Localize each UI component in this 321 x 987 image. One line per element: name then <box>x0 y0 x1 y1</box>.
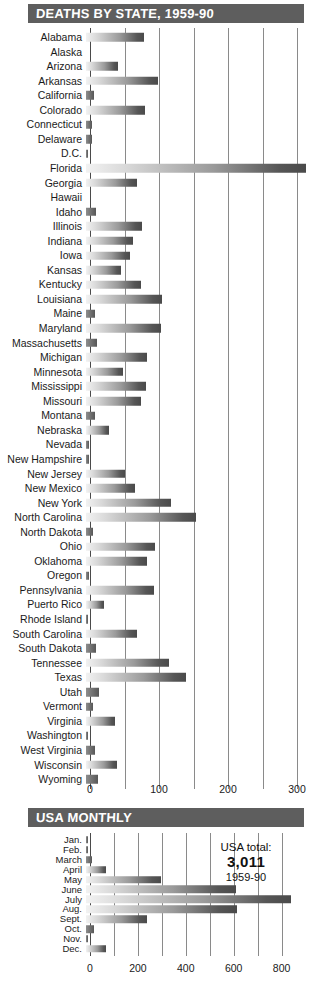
state-row: Oregon <box>0 568 321 583</box>
state-label: West Virginia <box>0 745 86 756</box>
month-bar <box>86 876 161 884</box>
month-label: May <box>0 875 86 885</box>
state-label: Massachusetts <box>0 338 86 349</box>
state-bar <box>86 251 130 260</box>
state-label: North Dakota <box>0 527 86 538</box>
state-label: Mississippi <box>0 381 86 392</box>
state-bar-track <box>86 146 321 161</box>
state-row: Tennessee <box>0 656 321 671</box>
state-row: North Dakota <box>0 525 321 540</box>
state-bar <box>86 600 104 609</box>
state-label: Delaware <box>0 134 86 145</box>
usa-total-value: 3,011 <box>207 854 285 871</box>
state-label: California <box>0 90 86 101</box>
state-label: Illinois <box>0 221 86 232</box>
state-bar-track <box>86 597 321 612</box>
state-bar-track <box>86 30 321 45</box>
state-bar <box>86 586 154 595</box>
state-bar-track <box>86 699 321 714</box>
state-label: Arizona <box>0 61 86 72</box>
state-row: Rhode Island <box>0 612 321 627</box>
state-label: Colorado <box>0 105 86 116</box>
state-bar <box>86 149 88 158</box>
state-bar-track <box>86 59 321 74</box>
state-label: South Carolina <box>0 629 86 640</box>
state-label: Ohio <box>0 541 86 552</box>
state-bar-track <box>86 612 321 627</box>
state-bar-track <box>86 336 321 351</box>
state-row: New Jersey <box>0 467 321 482</box>
month-row: Oct. <box>0 924 321 934</box>
state-label: Texas <box>0 672 86 683</box>
month-bar-track <box>86 885 321 895</box>
state-bar-track <box>86 656 321 671</box>
state-row: Montana <box>0 408 321 423</box>
state-label: Kentucky <box>0 279 86 290</box>
state-axis-tick-labels: 0100200300 <box>0 784 321 800</box>
state-bar <box>86 659 169 668</box>
state-row: Nevada <box>0 437 321 452</box>
state-bar <box>86 368 123 377</box>
state-bar-track <box>86 74 321 89</box>
month-bar-track <box>86 934 321 944</box>
state-bar-track <box>86 88 321 103</box>
state-label: New Mexico <box>0 483 86 494</box>
state-row: Kentucky <box>0 277 321 292</box>
state-bar-track <box>86 365 321 380</box>
state-bar <box>86 120 92 129</box>
state-bar-track <box>86 758 321 773</box>
state-bar <box>86 237 133 246</box>
month-row: Dec. <box>0 944 321 954</box>
usa-monthly-panel: USA MONTHLY Jan.Feb.MarchAprilMayJuneJul… <box>0 808 321 987</box>
month-row: Nov. <box>0 934 321 944</box>
state-bar-track <box>86 45 321 60</box>
state-tick-300: 300 <box>288 784 306 795</box>
month-label: June <box>0 885 86 895</box>
state-bar-track <box>86 103 321 118</box>
state-bar <box>86 382 146 391</box>
state-row: Massachusetts <box>0 336 321 351</box>
state-label: Minnesota <box>0 367 86 378</box>
month-bar-track <box>86 914 321 924</box>
state-bar-track <box>86 728 321 743</box>
deaths-by-state-title: DEATHS BY STATE, 1959-90 <box>28 6 215 21</box>
state-bar <box>86 440 89 449</box>
state-row: Vermont <box>0 699 321 714</box>
state-label: Virginia <box>0 716 86 727</box>
month-bar-track <box>86 894 321 904</box>
state-row: North Carolina <box>0 510 321 525</box>
state-bar <box>86 222 142 231</box>
state-label: Vermont <box>0 701 86 712</box>
state-bar-track <box>86 277 321 292</box>
state-row: West Virginia <box>0 743 321 758</box>
state-label: Oregon <box>0 570 86 581</box>
state-bar <box>86 77 158 86</box>
deaths-by-state-panel: DEATHS BY STATE, 1959-90 AlabamaAlaskaAr… <box>0 0 321 800</box>
state-bar-track <box>86 321 321 336</box>
state-bar <box>86 630 137 639</box>
state-row: Wisconsin <box>0 758 321 773</box>
state-bar-track <box>86 670 321 685</box>
state-bar-track <box>86 408 321 423</box>
state-bar <box>86 164 306 173</box>
state-row: Georgia <box>0 176 321 191</box>
state-bar-track <box>86 350 321 365</box>
state-bar-track <box>86 190 321 205</box>
state-bar-track <box>86 685 321 700</box>
state-row: Louisiana <box>0 292 321 307</box>
state-bar-track <box>86 205 321 220</box>
state-tick-0: 0 <box>87 784 93 795</box>
state-row: New Hampshire <box>0 452 321 467</box>
state-tick-200: 200 <box>219 784 237 795</box>
state-bar <box>86 91 94 100</box>
state-row: Illinois <box>0 219 321 234</box>
state-bar <box>86 135 92 144</box>
state-bar-track <box>86 481 321 496</box>
state-bar <box>86 280 141 289</box>
state-label: Indiana <box>0 236 86 247</box>
state-row: Arizona <box>0 59 321 74</box>
state-bar-track <box>86 539 321 554</box>
state-bar-track <box>86 394 321 409</box>
state-bar-track <box>86 568 321 583</box>
state-bar <box>86 339 97 348</box>
